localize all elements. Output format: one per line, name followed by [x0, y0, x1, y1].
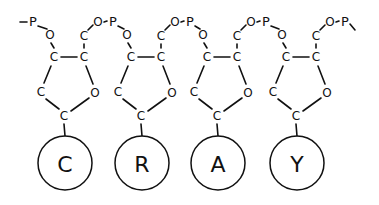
phosphorus-atom-label: P	[341, 14, 349, 29]
oxygen-atom-label: O	[243, 86, 252, 100]
oxygen-atom-label: O	[325, 15, 334, 29]
oxygen-atom-label: O	[90, 86, 99, 100]
phosphorus-atom-label: P	[186, 14, 194, 29]
base-label-c: C	[57, 152, 72, 177]
oxygen-carbon-bond	[204, 43, 207, 48]
oxygen-atom-label: O	[122, 28, 131, 42]
ring-bond	[278, 99, 291, 109]
carbon-atom-label: C	[233, 50, 241, 64]
ring-bond	[148, 98, 166, 111]
ring-bond	[46, 99, 59, 109]
carbon-atom-label: C	[114, 85, 122, 99]
carbon-atom-label: C	[269, 85, 277, 99]
carbon-oxygen-bond	[241, 25, 246, 30]
ring-bond	[44, 66, 51, 83]
ring-bond	[199, 99, 212, 109]
oxygen-phosphate-bond	[181, 21, 184, 22]
carbon-oxygen-bond	[88, 25, 93, 30]
carbon-atom-label: C	[312, 29, 320, 43]
phosphate-tail-bond	[350, 24, 355, 30]
oxygen-phosphate-bond	[104, 21, 107, 22]
glycosidic-bond	[141, 124, 142, 136]
carbon-atom-label: C	[60, 109, 68, 123]
phosphorus-atom-label: P	[29, 14, 37, 29]
carbon-atom-label: C	[157, 29, 165, 43]
oxygen-phosphate-bond	[257, 21, 260, 22]
carbon-atom-label: C	[127, 50, 135, 64]
base-label-r: R	[134, 152, 149, 177]
carbon-atom-label: C	[233, 29, 241, 43]
base-label-a: A	[210, 152, 225, 177]
carbon-atom-label: C	[137, 109, 145, 123]
ring-bond	[86, 66, 93, 84]
carbon-atom-label: C	[282, 50, 290, 64]
oxygen-carbon-bond	[51, 43, 54, 48]
carbon-atom-label: C	[157, 50, 165, 64]
oxygen-phosphate-bond	[336, 21, 339, 22]
ring-bond	[224, 98, 242, 111]
carbon-atom-label: C	[80, 50, 88, 64]
oxygen-atom-label: O	[45, 28, 54, 42]
oxygen-atom-label: O	[198, 28, 207, 42]
oxygen-atom-label: O	[93, 15, 102, 29]
carbon-atom-label: C	[203, 50, 211, 64]
oxygen-atom-label: O	[167, 86, 176, 100]
phosphorus-atom-label: P	[262, 14, 270, 29]
ring-bond	[163, 66, 170, 84]
oxygen-carbon-bond	[283, 43, 286, 48]
phosphorus-atom-label: P	[109, 14, 117, 29]
ring-bond	[303, 98, 321, 111]
carbon-atom-label: C	[213, 109, 221, 123]
carbon-atom-label: C	[292, 109, 300, 123]
carbon-atom-label: C	[50, 50, 58, 64]
oxygen-atom-label: O	[246, 15, 255, 29]
glycosidic-bond	[296, 124, 297, 136]
ring-bond	[197, 66, 204, 83]
carbon-oxygen-bond	[165, 25, 170, 30]
oxygen-atom-label: O	[170, 15, 179, 29]
carbon-atom-label: C	[37, 85, 45, 99]
carbon-oxygen-bond	[320, 25, 325, 30]
carbon-atom-label: C	[80, 29, 88, 43]
glycosidic-bond	[217, 124, 218, 136]
ring-bond	[123, 99, 136, 109]
carbon-atom-label: C	[190, 85, 198, 99]
ring-bond	[71, 98, 89, 111]
oxygen-atom-label: O	[277, 28, 286, 42]
ring-bond	[318, 66, 325, 84]
oxygen-atom-label: O	[322, 86, 331, 100]
ring-bond	[121, 66, 128, 83]
base-label-y: Y	[289, 152, 304, 177]
nucleotide-chain-diagram: POCCCCOCOPCOCCCCOCOPROCCCCOCOPAOCCCCOCOP…	[0, 0, 379, 205]
glycosidic-bond	[64, 124, 65, 136]
carbon-atom-label: C	[312, 50, 320, 64]
ring-bond	[276, 66, 283, 83]
oxygen-carbon-bond	[128, 43, 131, 48]
ring-bond	[239, 66, 246, 84]
